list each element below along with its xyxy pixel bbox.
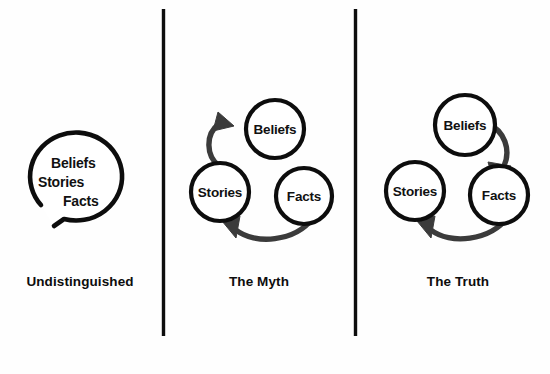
myth-label-stories: Stories: [198, 185, 242, 200]
myth-label-facts: Facts: [287, 189, 321, 204]
undistinguished-label-stories: Stories: [38, 174, 84, 190]
truth-label-facts: Facts: [482, 188, 516, 203]
truth-label-stories: Stories: [393, 184, 437, 199]
undistinguished-label-facts: Facts: [63, 193, 99, 209]
arrow-stories-to-beliefs: [209, 112, 234, 166]
diagram-canvas: Beliefs Stories Facts Undistinguished: [0, 0, 550, 374]
panel-the-truth: Beliefs Stories Facts The Truth: [386, 95, 528, 289]
caption-the-truth: The Truth: [427, 274, 489, 289]
truth-label-beliefs: Beliefs: [444, 118, 487, 133]
caption-the-myth: The Myth: [229, 274, 289, 289]
panel-undistinguished: Beliefs Stories Facts Undistinguished: [26, 133, 133, 289]
panel-the-myth: Beliefs Stories Facts The Myth: [191, 100, 332, 289]
myth-label-beliefs: Beliefs: [254, 122, 297, 137]
undistinguished-label-beliefs: Beliefs: [51, 155, 96, 171]
caption-undistinguished: Undistinguished: [26, 274, 133, 289]
concept-diagram: Beliefs Stories Facts Undistinguished: [0, 0, 550, 374]
